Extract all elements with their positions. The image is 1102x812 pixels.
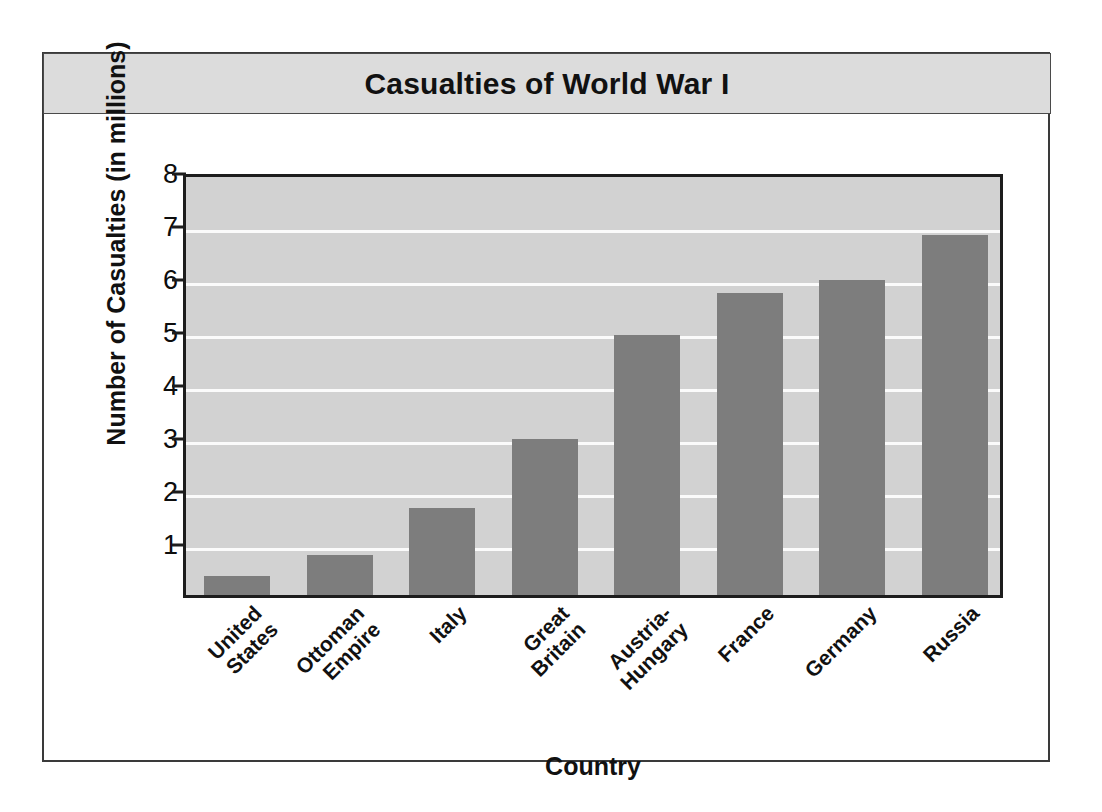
page-title: Casualties of World War I [364,67,729,101]
x-axis-tick-labels: UnitedStatesOttomanEmpireItalyGreatBrita… [183,602,1003,732]
chart-title-banner: Casualties of World War I [43,53,1051,114]
bar [717,293,783,595]
bar [922,235,988,595]
x-axis-tick-label: UnitedStates [203,602,283,682]
bar [409,508,475,595]
bar [307,555,373,595]
plot-area [183,174,1003,598]
bar [204,576,270,595]
bar [819,280,885,595]
bar [512,439,578,595]
bars-layer [186,177,1000,595]
x-axis-title: Country [183,752,1003,781]
bar [614,335,680,595]
chart-figure-frame: Casualties of World War I Number of Casu… [42,52,1050,762]
y-axis-title: Number of Casualties (in millions) [102,0,131,524]
